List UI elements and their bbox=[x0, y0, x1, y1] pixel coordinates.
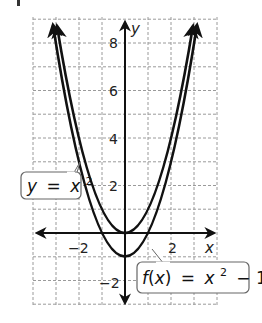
y-axis-label: y bbox=[130, 20, 141, 38]
graph: −2 2 x 8 6 4 2 −2 y y = x 2 f(x) = x 2 bbox=[0, 0, 262, 323]
callout-f-x2: x bbox=[203, 268, 215, 288]
callout-parent-eq: = bbox=[46, 176, 60, 196]
tick-y-neg2: −2 bbox=[99, 275, 120, 291]
callout-parent: y = x 2 bbox=[21, 162, 93, 199]
svg-text:y = x 2: y = x 2 bbox=[26, 175, 93, 196]
callout-f-eq: = bbox=[181, 268, 195, 288]
callout-f-close: ) bbox=[165, 268, 172, 288]
tick-y-6: 6 bbox=[109, 83, 118, 99]
callout-f-minus: − 1 bbox=[236, 268, 262, 288]
callout-parent-y: y bbox=[26, 176, 38, 196]
callout-f-exp: 2 bbox=[220, 266, 227, 279]
cropped-glyph bbox=[17, 0, 20, 6]
callout-parent-exp: 2 bbox=[86, 175, 93, 188]
callout-parent-x: x bbox=[69, 176, 81, 196]
x-axis-label: x bbox=[204, 239, 214, 257]
callout-f-open: ( bbox=[148, 268, 155, 288]
tick-y-4: 4 bbox=[109, 131, 118, 147]
tick-x-2: 2 bbox=[168, 240, 177, 256]
tick-y-8: 8 bbox=[109, 35, 118, 51]
tick-y-2: 2 bbox=[109, 178, 118, 194]
callout-f: f(x) = x 2 − 1 bbox=[137, 249, 262, 293]
tick-x-neg2: −2 bbox=[68, 240, 89, 256]
